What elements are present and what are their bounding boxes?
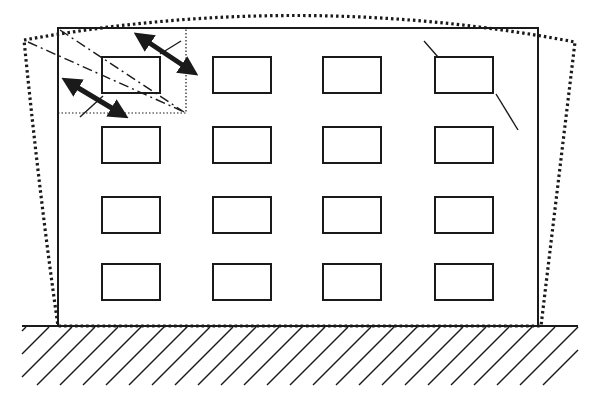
hatch-line xyxy=(497,327,555,385)
ground-hatching xyxy=(22,327,578,385)
hatch-line xyxy=(221,327,279,385)
window xyxy=(435,57,493,93)
hatch-line xyxy=(152,327,210,385)
hatch-line xyxy=(451,327,509,385)
double-arrow-icon xyxy=(70,83,120,113)
hatch-line xyxy=(267,327,325,385)
hatch-line xyxy=(129,327,187,385)
window xyxy=(213,57,271,93)
double-arrow-icon xyxy=(142,38,190,70)
hatch-line xyxy=(474,327,532,385)
window xyxy=(102,197,160,233)
hatch-line xyxy=(313,327,371,385)
hatch-line xyxy=(22,327,72,377)
crack-line xyxy=(28,42,182,111)
hatch-line xyxy=(106,327,164,385)
window xyxy=(435,264,493,300)
window xyxy=(213,197,271,233)
building-deformation-diagram xyxy=(0,0,595,415)
window xyxy=(102,57,160,93)
window xyxy=(323,197,381,233)
window xyxy=(102,127,160,163)
hatch-line xyxy=(60,327,118,385)
hatch-line xyxy=(428,327,486,385)
window xyxy=(323,57,381,93)
window xyxy=(213,264,271,300)
window xyxy=(435,127,493,163)
hatch-line xyxy=(359,327,417,385)
hatch-line xyxy=(290,327,348,385)
hatch-line xyxy=(37,327,95,385)
hatch-line xyxy=(520,327,578,385)
window xyxy=(435,197,493,233)
window xyxy=(213,127,271,163)
window xyxy=(102,264,160,300)
corner-cracks xyxy=(80,41,518,130)
hatch-line xyxy=(405,327,463,385)
window xyxy=(323,127,381,163)
crack-line xyxy=(60,30,184,112)
hatch-line xyxy=(336,327,394,385)
hatch-line xyxy=(175,327,233,385)
window xyxy=(323,264,381,300)
crack-line xyxy=(496,94,518,130)
hatch-line xyxy=(543,350,578,385)
building-outline xyxy=(58,28,538,326)
hatch-line xyxy=(83,327,141,385)
window-grid xyxy=(102,57,493,300)
hatch-line xyxy=(244,327,302,385)
hatch-line xyxy=(382,327,440,385)
hatch-line xyxy=(198,327,256,385)
crack-line xyxy=(424,41,438,57)
hatch-line xyxy=(22,327,26,331)
hatch-line xyxy=(22,327,49,354)
